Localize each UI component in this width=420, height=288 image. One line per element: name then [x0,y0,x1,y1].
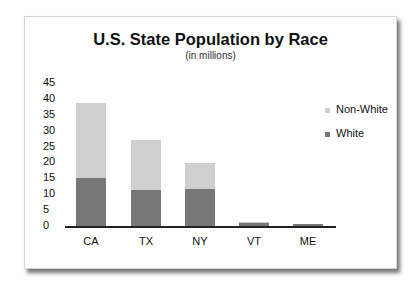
bar-tx-non-white [131,140,161,190]
chart-frame: U.S. State Population by Race (in millio… [24,16,397,269]
y-tick-label: 30 [43,124,63,136]
legend-item-non-white: Non-White [325,103,388,115]
y-tick-label: 20 [43,155,63,167]
legend-item-white: White [325,127,364,139]
bar-ca-white [76,178,106,226]
y-tick-label: 25 [43,140,63,152]
x-tick-label: TX [126,235,166,247]
x-tick-label: NY [180,235,220,247]
legend-label-non-white: Non-White [336,103,388,115]
chart-title: U.S. State Population by Race [25,30,396,49]
y-tick-label: 10 [43,187,63,199]
bar-vt-white [239,222,269,226]
y-tick-label: 5 [43,203,63,215]
y-tick-label: 35 [43,108,63,120]
x-tick-label: VT [234,235,274,247]
x-axis-line [65,226,336,228]
y-tick-label: 45 [43,76,63,88]
bar-ny-non-white [185,163,215,189]
y-tick-label: 40 [43,92,63,104]
bar-tx-white [131,190,161,226]
bar-ny-white [185,189,215,226]
chart-subtitle: (in millions) [25,50,396,61]
x-tick-label: CA [71,235,111,247]
bar-me-white [293,224,323,226]
legend-swatch-white [325,132,330,137]
legend-label-white: White [336,127,364,139]
bar-ca-non-white [76,103,106,178]
x-tick-label: ME [288,235,328,247]
legend-swatch-non-white [325,108,330,113]
y-tick-label: 0 [43,219,63,231]
y-tick-label: 15 [43,171,63,183]
